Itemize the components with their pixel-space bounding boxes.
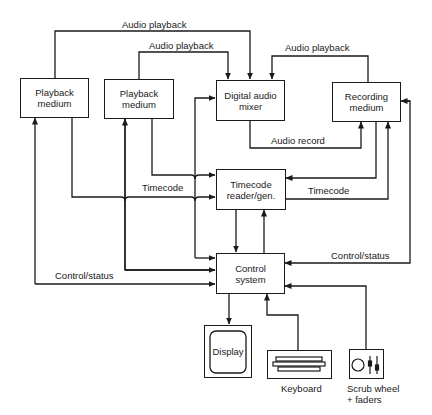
edge-label-audio-playback-2: Audio playback bbox=[149, 40, 213, 51]
timecode-reader-gen-box: Timecode reader/gen. bbox=[216, 169, 286, 210]
recording-medium-box: Recording medium bbox=[332, 82, 401, 122]
display-box: Display bbox=[204, 325, 252, 378]
edge-label-control-status-left: Control/status bbox=[55, 270, 114, 281]
scrub-wheel-box bbox=[349, 349, 384, 379]
digital-audio-mixer-box: Digital audio mixer bbox=[216, 80, 285, 121]
edge-label-control-status-right: Control/status bbox=[331, 250, 390, 261]
playback-medium-1-box: Playback medium bbox=[20, 78, 89, 118]
playback-medium-2-box: Playback medium bbox=[104, 79, 174, 119]
edge-label-audio-playback-1: Audio playback bbox=[122, 19, 186, 30]
edge-label-timecode-right: Timecode bbox=[308, 185, 349, 196]
display-label: Display bbox=[212, 346, 243, 357]
edge-label-audio-record: Audio record bbox=[271, 135, 325, 146]
edge-label-timecode-left: Timecode bbox=[142, 182, 183, 193]
control-system-box: Control system bbox=[216, 253, 285, 294]
edge-label-audio-playback-3: Audio playback bbox=[285, 42, 349, 53]
keyboard-box bbox=[267, 350, 332, 379]
scrub-wheel-label: Scrub wheel + faders bbox=[347, 383, 399, 405]
keyboard-label: Keyboard bbox=[281, 383, 322, 394]
